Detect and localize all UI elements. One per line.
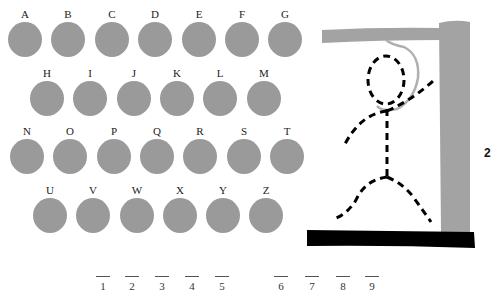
- key-circle[interactable]: [53, 139, 87, 174]
- key-circle[interactable]: [160, 81, 194, 116]
- key-r[interactable]: R: [183, 125, 217, 181]
- gallows-beam: [322, 28, 442, 43]
- figure-right-leg: [387, 177, 431, 222]
- key-circle[interactable]: [227, 139, 261, 174]
- key-j[interactable]: J: [117, 67, 151, 123]
- key-g[interactable]: G: [268, 8, 302, 64]
- blank-number: 2: [129, 280, 135, 292]
- blank-underline: [96, 276, 110, 277]
- blank-slot: 6: [274, 276, 288, 292]
- key-s[interactable]: S: [227, 125, 261, 181]
- blank-underline: [125, 276, 139, 277]
- key-circle[interactable]: [206, 198, 240, 233]
- blank-number: 3: [159, 280, 165, 292]
- key-y[interactable]: Y: [206, 184, 240, 240]
- key-k[interactable]: K: [160, 67, 194, 123]
- key-w[interactable]: W: [120, 184, 154, 240]
- key-b[interactable]: B: [51, 8, 85, 64]
- key-label: Y: [206, 184, 240, 196]
- blank-slot: 4: [185, 276, 199, 292]
- gallows-post: [439, 21, 470, 232]
- key-circle[interactable]: [10, 139, 44, 174]
- key-label: L: [203, 67, 237, 79]
- key-label: S: [227, 125, 261, 137]
- key-circle[interactable]: [95, 22, 129, 57]
- key-n[interactable]: N: [10, 125, 44, 181]
- key-circle[interactable]: [76, 198, 110, 233]
- blank-number: 9: [369, 280, 375, 292]
- key-e[interactable]: E: [182, 8, 216, 64]
- key-f[interactable]: F: [225, 8, 259, 64]
- blank-number: 1: [100, 280, 106, 292]
- key-circle[interactable]: [120, 198, 154, 233]
- key-o[interactable]: O: [53, 125, 87, 181]
- blank-underline: [336, 276, 350, 277]
- key-m[interactable]: M: [247, 67, 281, 123]
- figure-head: [368, 56, 404, 104]
- key-circle[interactable]: [117, 81, 151, 116]
- key-label: G: [268, 8, 302, 20]
- blank-underline: [215, 276, 229, 277]
- key-t[interactable]: T: [270, 125, 304, 181]
- key-label: U: [33, 184, 67, 196]
- key-circle[interactable]: [140, 139, 174, 174]
- key-label: J: [117, 67, 151, 79]
- blank-slot: 7: [305, 276, 319, 292]
- key-a[interactable]: A: [8, 8, 42, 64]
- side-counter: 2: [484, 146, 491, 160]
- key-label: R: [183, 125, 217, 137]
- blank-underline: [185, 276, 199, 277]
- key-q[interactable]: Q: [140, 125, 174, 181]
- key-label: Z: [249, 184, 283, 196]
- hangman-gallows: [300, 0, 491, 260]
- key-z[interactable]: Z: [249, 184, 283, 240]
- key-x[interactable]: X: [163, 184, 197, 240]
- key-h[interactable]: H: [30, 67, 64, 123]
- blank-slot: 9: [365, 276, 379, 292]
- key-circle[interactable]: [182, 22, 216, 57]
- key-p[interactable]: P: [97, 125, 131, 181]
- blank-number: 8: [340, 280, 346, 292]
- key-label: D: [138, 8, 172, 20]
- key-label: T: [270, 125, 304, 137]
- key-circle[interactable]: [270, 139, 304, 174]
- key-circle[interactable]: [8, 22, 42, 57]
- key-circle[interactable]: [183, 139, 217, 174]
- key-circle[interactable]: [30, 81, 64, 116]
- key-label: Q: [140, 125, 174, 137]
- key-label: X: [163, 184, 197, 196]
- key-circle[interactable]: [33, 198, 67, 233]
- key-circle[interactable]: [247, 81, 281, 116]
- key-circle[interactable]: [97, 139, 131, 174]
- key-l[interactable]: L: [203, 67, 237, 123]
- key-u[interactable]: U: [33, 184, 67, 240]
- key-d[interactable]: D: [138, 8, 172, 64]
- rope: [377, 40, 418, 110]
- key-circle[interactable]: [203, 81, 237, 116]
- blank-slot: 5: [215, 276, 229, 292]
- key-label: P: [97, 125, 131, 137]
- key-label: E: [182, 8, 216, 20]
- key-i[interactable]: I: [73, 67, 107, 123]
- key-label: W: [120, 184, 154, 196]
- key-label: H: [30, 67, 64, 79]
- key-circle[interactable]: [138, 22, 172, 57]
- key-circle[interactable]: [225, 22, 259, 57]
- key-label: B: [51, 8, 85, 20]
- blank-number: 6: [278, 280, 284, 292]
- key-circle[interactable]: [163, 198, 197, 233]
- key-label: A: [8, 8, 42, 20]
- blank-slot: 8: [336, 276, 350, 292]
- key-label: V: [76, 184, 110, 196]
- key-circle[interactable]: [268, 22, 302, 57]
- key-label: F: [225, 8, 259, 20]
- figure-left-leg: [336, 177, 387, 218]
- key-circle[interactable]: [51, 22, 85, 57]
- figure-left-arm: [344, 111, 387, 146]
- key-c[interactable]: C: [95, 8, 129, 64]
- key-label: K: [160, 67, 194, 79]
- key-circle[interactable]: [73, 81, 107, 116]
- blank-slot: 3: [155, 276, 169, 292]
- key-v[interactable]: V: [76, 184, 110, 240]
- key-circle[interactable]: [249, 198, 283, 233]
